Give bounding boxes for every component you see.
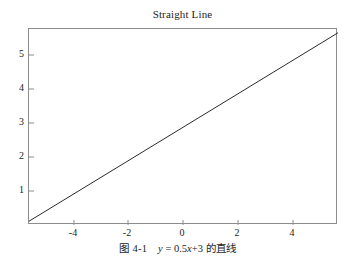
x-axis-tick-label-2: 2 <box>226 227 248 238</box>
figure-caption-formula-post: +3 <box>192 243 203 254</box>
x-axis-ticks <box>74 220 293 225</box>
figure-caption-number: 图 4-1 <box>119 243 147 254</box>
figure-container: Straight Line 5 4 3 <box>0 0 355 266</box>
x-axis-tick-label-neg4: -4 <box>62 227 84 238</box>
x-axis-tick-label-4: 4 <box>281 227 303 238</box>
plot-area <box>28 28 337 224</box>
x-axis-tick-label-0: 0 <box>171 227 193 238</box>
y-axis-tick-label-4: 4 <box>6 82 24 93</box>
figure-caption-formula-pre: = 0.5 <box>165 243 187 254</box>
y-axis-tick-label-1: 1 <box>6 184 24 195</box>
figure-caption-variable-y: y <box>158 243 163 254</box>
y-axis-tick-label-2: 2 <box>6 150 24 161</box>
y-axis-tick-label-5: 5 <box>6 48 24 59</box>
figure-caption-suffix: 的直线 <box>206 243 236 254</box>
y-axis-tick-label-3: 3 <box>6 116 24 127</box>
data-line-series <box>29 33 338 221</box>
plot-canvas <box>29 29 338 225</box>
x-axis-tick-label-neg2: -2 <box>116 227 138 238</box>
figure-caption: 图 4-1y = 0.5x+3 的直线 <box>0 240 355 255</box>
chart-title: Straight Line <box>28 8 337 20</box>
y-axis-ticks <box>29 55 34 191</box>
